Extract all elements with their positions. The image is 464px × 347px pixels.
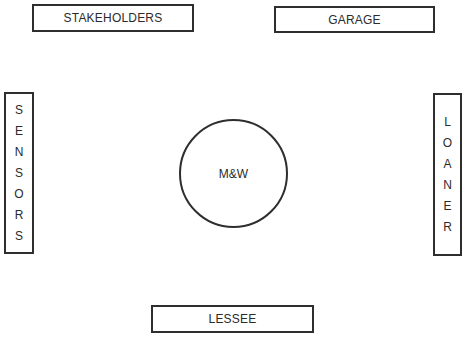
sensors-letter: R: [15, 205, 24, 226]
stakeholders-label: STAKEHOLDERS: [64, 11, 163, 25]
loaner-letter: A: [443, 154, 451, 175]
mw-label: M&W: [219, 167, 248, 181]
sensors-letter: S: [15, 100, 23, 121]
loaner-letter: O: [443, 133, 452, 154]
loaner-letter: R: [443, 217, 452, 238]
sensors-letter: S: [15, 226, 23, 247]
stakeholders-box: STAKEHOLDERS: [32, 4, 194, 32]
loaner-letter: L: [444, 112, 451, 133]
lessee-label: LESSEE: [209, 312, 257, 326]
garage-label: GARAGE: [328, 13, 381, 27]
loaner-box: L O A N E R: [433, 93, 462, 256]
sensors-letter: E: [15, 121, 23, 142]
garage-box: GARAGE: [274, 6, 435, 33]
mw-circle: M&W: [179, 119, 288, 228]
sensors-letter: S: [15, 163, 23, 184]
sensors-box: S E N S O R S: [4, 92, 34, 254]
diagram-canvas: STAKEHOLDERS GARAGE S E N S O R S L O A …: [0, 0, 464, 347]
sensors-letter: N: [15, 142, 24, 163]
sensors-letter: O: [14, 184, 23, 205]
loaner-letter: E: [443, 196, 451, 217]
lessee-box: LESSEE: [151, 305, 314, 333]
loaner-letter: N: [443, 175, 452, 196]
